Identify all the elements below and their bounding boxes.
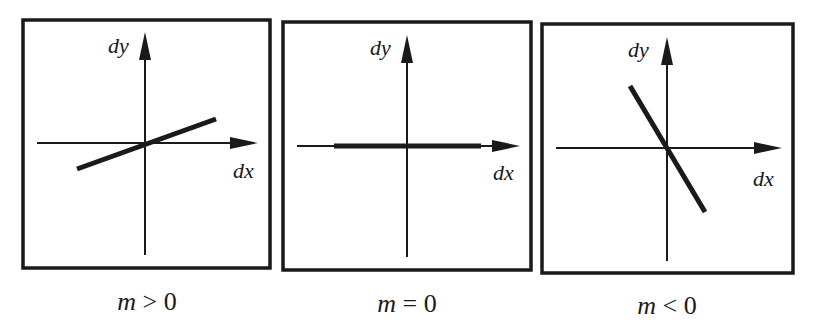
panel-zero-slope: dydxm = 0 xyxy=(283,22,531,318)
x-axis-arrow-icon xyxy=(754,142,782,154)
x-axis-label: dx xyxy=(233,158,254,183)
y-axis-arrow-icon xyxy=(401,35,413,63)
panel-caption: m > 0 xyxy=(117,287,176,316)
x-axis-label: dx xyxy=(753,166,774,191)
slope-diagram: dydxm > 0 dydxm = 0 dydxm < 0 xyxy=(0,0,814,336)
y-axis-label: dy xyxy=(370,35,391,60)
x-axis-arrow-icon xyxy=(492,140,520,152)
y-axis-arrow-icon xyxy=(661,37,673,65)
y-axis-arrow-icon xyxy=(139,32,151,60)
panel-positive-slope: dydxm > 0 xyxy=(23,20,270,316)
panel-caption: m = 0 xyxy=(377,289,436,318)
x-axis-label: dx xyxy=(493,160,514,185)
x-axis-arrow-icon xyxy=(230,137,258,149)
panel-negative-slope: dydxm < 0 xyxy=(542,24,793,320)
y-axis-label: dy xyxy=(628,37,649,62)
y-axis-label: dy xyxy=(108,33,129,58)
panel-caption: m < 0 xyxy=(637,291,696,320)
